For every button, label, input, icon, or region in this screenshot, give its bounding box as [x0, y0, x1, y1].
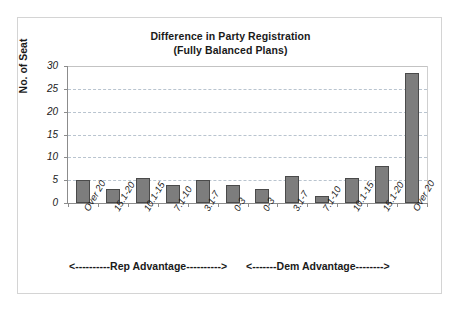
bar	[405, 73, 419, 203]
advantage-annotations: <----------Rep Advantage----------> <---…	[67, 260, 426, 274]
gridline-10	[68, 157, 427, 158]
y-tick-label-0: 0	[18, 198, 58, 208]
x-tick-mark	[218, 203, 219, 207]
gridline-15	[68, 135, 427, 136]
y-tick-mark-5	[64, 180, 68, 181]
gridline-25	[68, 89, 427, 90]
y-tick-label-20: 20	[18, 107, 58, 117]
x-category-label: 7.1-10	[321, 185, 343, 213]
y-tick-mark-25	[64, 89, 68, 90]
chart-frame: Difference in Party Registration (Fully …	[17, 17, 442, 294]
x-tick-mark	[397, 203, 398, 207]
x-tick-mark	[367, 203, 368, 207]
x-tick-mark	[307, 203, 308, 207]
chart-title-line-1: Difference in Party Registration	[18, 29, 443, 43]
x-tick-mark	[427, 203, 428, 207]
y-tick-mark-20	[64, 112, 68, 113]
x-tick-mark	[158, 203, 159, 207]
y-tick-label-30: 30	[18, 61, 58, 71]
x-tick-mark	[248, 203, 249, 207]
rep-advantage-annotation: <----------Rep Advantage---------->	[69, 260, 227, 272]
x-tick-mark	[98, 203, 99, 207]
gridline-5	[68, 180, 427, 181]
y-tick-mark-30	[64, 66, 68, 67]
x-tick-mark	[128, 203, 129, 207]
y-tick-mark-10	[64, 157, 68, 158]
x-category-label: 0-3	[261, 196, 277, 213]
x-tick-mark	[277, 203, 278, 207]
x-tick-mark	[68, 203, 69, 207]
x-tick-mark	[337, 203, 338, 207]
y-tick-mark-15	[64, 135, 68, 136]
y-tick-label-10: 10	[18, 152, 58, 162]
gridline-20	[68, 112, 427, 113]
chart-title-line-2: (Fully Balanced Plans)	[18, 43, 443, 57]
y-tick-label-5: 5	[18, 175, 58, 185]
y-tick-label-15: 15	[18, 130, 58, 140]
chart-title: Difference in Party Registration (Fully …	[18, 29, 443, 57]
gridline-30	[68, 66, 427, 67]
x-tick-mark	[188, 203, 189, 207]
y-tick-label-25: 25	[18, 84, 58, 94]
dem-advantage-annotation: <-------Dem Advantage-------->	[246, 260, 390, 272]
plot-area: 302520151050 Over 2015.1-2010.1-157.1-10…	[67, 66, 427, 204]
